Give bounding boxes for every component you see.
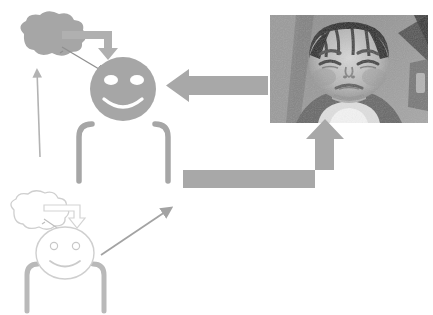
- observer-figure-active: [20, 11, 168, 181]
- diagram-canvas: [0, 0, 433, 315]
- shoulder-bracket-right-faded: [93, 264, 104, 311]
- smiley-eye-left-faded: [50, 242, 57, 249]
- shoulder-bracket-left-faded: [27, 264, 38, 311]
- smiley-eye-right: [130, 75, 144, 85]
- shoulder-bracket-left: [79, 124, 92, 181]
- arrow-thin-up: [37, 70, 40, 157]
- smiley-head-faded: [36, 227, 94, 279]
- smiley-head: [90, 57, 156, 121]
- arrow-photo-to-head: [166, 69, 268, 102]
- cloud-tether-line: [62, 47, 104, 72]
- arrow-diagonal-up-right: [101, 208, 171, 255]
- vector-layer: [0, 0, 433, 315]
- smiley-eye-left: [104, 75, 118, 85]
- arrow-body-to-photo: [183, 119, 344, 188]
- shoulder-bracket-right: [155, 124, 168, 181]
- observer-figure-faded: [11, 191, 104, 311]
- smiley-eye-right-faded: [72, 242, 79, 249]
